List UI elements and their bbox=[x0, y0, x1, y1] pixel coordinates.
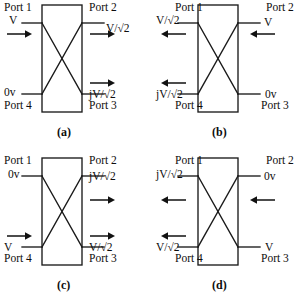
port1-name-d: Port 1 bbox=[175, 154, 203, 166]
port1-name-c: Port 1 bbox=[4, 154, 32, 166]
port3-name-b: Port 3 bbox=[261, 99, 289, 111]
port2-name-b: Port 2 bbox=[266, 1, 294, 13]
port4-name-b: Port 4 bbox=[175, 99, 203, 111]
arrow-port1-a bbox=[7, 30, 32, 37]
port3-name-d: Port 3 bbox=[261, 252, 289, 264]
arrow-port2-c bbox=[90, 196, 115, 203]
panel-c: Port 1 0v Port 2 jV/√2 V Port 4 V/√2 Por… bbox=[0, 151, 153, 302]
panel-b: Port 1 V/√2 Port 2 V jV/√2 Port 4 0v Por… bbox=[154, 0, 307, 151]
arrow-port4-c bbox=[7, 232, 32, 239]
port1-name-a: Port 1 bbox=[4, 1, 32, 13]
arrow-port3-c bbox=[90, 232, 115, 239]
panel-a-schematic bbox=[0, 0, 153, 151]
port2-name-c: Port 2 bbox=[89, 154, 117, 166]
arrow-port1-b bbox=[161, 30, 186, 37]
arrow-port3-a bbox=[90, 79, 115, 86]
port2-value-b: V bbox=[264, 16, 272, 28]
port3-name-a: Port 3 bbox=[89, 99, 117, 111]
coupler-figure: Port 1 V Port 2 V/√2 0v Port 4 jV/√2 Por… bbox=[0, 0, 307, 302]
arrow-port1-d bbox=[161, 196, 186, 203]
caption-b: (b) bbox=[212, 125, 227, 140]
port2-name-a: Port 2 bbox=[89, 1, 117, 13]
port2-value-d: 0v bbox=[264, 170, 276, 182]
arrow-port2-b bbox=[250, 30, 275, 37]
port4-name-c: Port 4 bbox=[4, 252, 32, 264]
caption-a: (a) bbox=[57, 125, 71, 140]
port1-value-b: V/√2 bbox=[156, 14, 180, 26]
arrow-port4-b bbox=[161, 79, 186, 86]
panel-a: Port 1 V Port 2 V/√2 0v Port 4 jV/√2 Por… bbox=[0, 0, 153, 151]
port1-value-a: V bbox=[9, 14, 17, 26]
port3-name-c: Port 3 bbox=[89, 252, 117, 264]
port2-value-c: jV/√2 bbox=[89, 170, 116, 182]
port2-value-a: V/√2 bbox=[106, 22, 130, 34]
port4-value-a: 0v bbox=[4, 86, 16, 98]
port1-value-d: jV/√2 bbox=[156, 168, 183, 180]
port1-name-b: Port 1 bbox=[175, 1, 203, 13]
port2-name-d: Port 2 bbox=[266, 154, 294, 166]
caption-d: (d) bbox=[212, 278, 227, 293]
arrow-port4-d bbox=[161, 232, 186, 239]
port1-value-c: 0v bbox=[8, 168, 20, 180]
panel-c-schematic bbox=[0, 151, 153, 302]
port4-name-a: Port 4 bbox=[4, 99, 32, 111]
arrow-port2-d bbox=[250, 196, 275, 203]
port4-name-d: Port 4 bbox=[175, 252, 203, 264]
panel-d: Port 1 jV/√2 Port 2 0v V/√2 Port 4 V Por… bbox=[154, 151, 307, 302]
caption-c: (c) bbox=[57, 278, 70, 293]
